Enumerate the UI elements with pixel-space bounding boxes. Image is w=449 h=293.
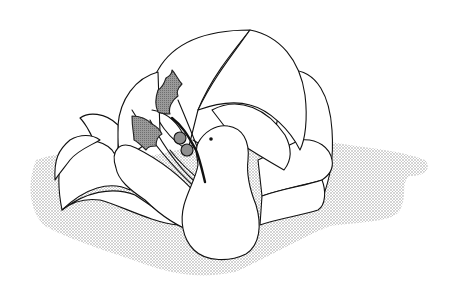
berry-1 bbox=[174, 132, 186, 144]
berry-2 bbox=[181, 144, 193, 156]
dove-illustration bbox=[0, 0, 449, 293]
dove-eye bbox=[209, 137, 213, 141]
